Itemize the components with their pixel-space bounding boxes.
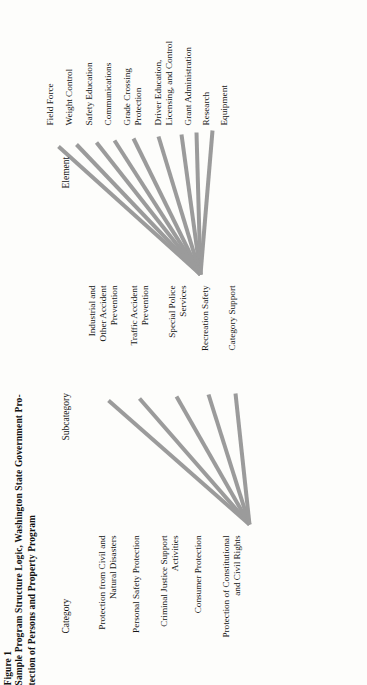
figure-title-line-2: tection of Persons and Property Program (26, 514, 36, 685)
figure-number: Figure 1 (2, 650, 12, 685)
element-node-3-line-1: Safety Education (83, 0, 94, 125)
category-node-3-line-1: Criminal Justice Support (158, 535, 169, 685)
column-header-category: Category (60, 598, 70, 633)
subcategory-node-2-line-1: Traffic Accident (128, 285, 139, 435)
category-node-1-line-2: Natural Disasters (107, 535, 118, 685)
subcategory-node-3[interactable]: Special Police Services (166, 285, 188, 435)
element-node-5-line-1: Grade Crossing (121, 0, 132, 125)
element-node-4-line-1: Communications (102, 0, 113, 125)
element-node-1-line-1: Field Force (44, 0, 55, 125)
category-node-4-line-1: Consumer Protection (192, 535, 203, 685)
category-node-1-line-1: Protection from Civil and (96, 535, 107, 685)
subcategory-node-3-line-1: Special Police (166, 285, 177, 435)
figure-page: Figure 1 Sample Program Structure Logic,… (0, 0, 367, 685)
element-node-2[interactable]: Weight Control (63, 0, 74, 125)
subcategory-node-3-line-2: Services (177, 285, 188, 435)
element-node-4[interactable]: Communications (102, 0, 113, 125)
element-node-7[interactable]: Grant Administration (182, 0, 193, 125)
rotated-figure-canvas: Figure 1 Sample Program Structure Logic,… (0, 0, 367, 685)
category-node-3-line-2: Activities (169, 535, 180, 685)
subcategory-fan (58, 130, 212, 274)
element-node-9[interactable]: Equipment (218, 0, 229, 125)
category-node-3[interactable]: Criminal Justice Support Activities (158, 535, 180, 685)
subcategory-node-1[interactable]: Industrial and Other Accident Prevention (86, 285, 119, 435)
category-node-2-line-1: Personal Safety Protection (130, 535, 141, 685)
category-node-5-line-1: Protection of Constitutional (220, 535, 231, 685)
element-node-5-line-2: Protection (132, 0, 143, 125)
element-node-5[interactable]: Grade Crossing Protection (121, 0, 143, 125)
subcategory-node-4[interactable]: Recreation Safety (199, 285, 210, 435)
column-header-element: Element (60, 156, 70, 188)
element-node-2-line-1: Weight Control (63, 0, 74, 125)
category-node-4[interactable]: Consumer Protection (192, 535, 203, 685)
element-node-8-line-1: Research (200, 0, 211, 125)
category-node-5-line-2: and Civil Rights (231, 535, 242, 685)
element-node-9-line-1: Equipment (218, 0, 229, 125)
subcategory-node-1-line-2: Other Accident (97, 285, 108, 435)
category-node-1[interactable]: Protection from Civil and Natural Disast… (96, 535, 118, 685)
subcategory-node-1-line-3: Prevention (108, 285, 119, 435)
element-node-8[interactable]: Research (200, 0, 211, 125)
subcategory-node-1-line-1: Industrial and (86, 285, 97, 435)
category-node-5[interactable]: Protection of Constitutional and Civil R… (220, 535, 242, 685)
element-node-6-line-2: Licensing, and Control (163, 0, 174, 125)
figure-title-line-1: Sample Program Structure Logic, Washingt… (13, 394, 23, 685)
element-node-6-line-1: Driver Education, (152, 0, 163, 125)
column-header-subcategory: Subcategory (60, 393, 70, 441)
subcategory-node-2[interactable]: Traffic Accident Prevention (128, 285, 150, 435)
subcategory-node-2-line-2: Prevention (139, 285, 150, 435)
element-node-1[interactable]: Field Force (44, 0, 55, 125)
element-node-7-line-1: Grant Administration (182, 0, 193, 125)
subcategory-node-5-line-1: Category Support (226, 285, 237, 435)
category-node-2[interactable]: Personal Safety Protection (130, 535, 141, 685)
subcategory-node-5[interactable]: Category Support (226, 285, 237, 435)
element-node-6[interactable]: Driver Education, Licensing, and Control (152, 0, 174, 125)
subcategory-node-4-line-1: Recreation Safety (199, 285, 210, 435)
figure-body: Figure 1 Sample Program Structure Logic,… (0, 0, 367, 685)
element-node-3[interactable]: Safety Education (83, 0, 94, 125)
